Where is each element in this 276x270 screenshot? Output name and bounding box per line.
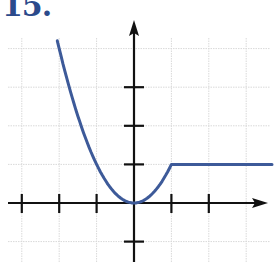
graph <box>0 0 276 270</box>
axes <box>8 20 268 262</box>
grid <box>8 38 270 262</box>
function-curve <box>57 41 272 203</box>
